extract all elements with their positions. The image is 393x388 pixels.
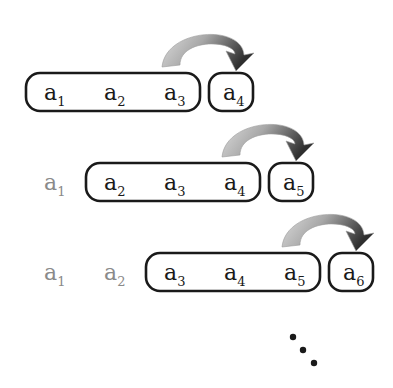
term-base: a xyxy=(224,170,237,195)
term-subscript: 2 xyxy=(117,94,125,109)
term-subscript: 4 xyxy=(236,94,244,109)
term-subscript: 2 xyxy=(117,184,125,199)
curved-arrow-icon xyxy=(282,214,374,251)
window-term: a3 xyxy=(164,170,185,199)
term-base: a xyxy=(164,260,177,285)
term-subscript: 3 xyxy=(177,184,185,199)
window-term: a2 xyxy=(104,80,125,109)
ellipsis-dot xyxy=(311,360,317,366)
term-base: a xyxy=(343,260,356,285)
term-subscript: 3 xyxy=(177,274,185,289)
window-row: a1a2a3a4a5 xyxy=(44,124,314,201)
ellipsis-dot xyxy=(290,334,296,340)
term-base: a xyxy=(283,170,296,195)
term-base: a xyxy=(104,170,117,195)
window-term: a3 xyxy=(164,80,185,109)
next-term: a6 xyxy=(343,260,364,289)
ellipsis-dot xyxy=(300,347,306,353)
term-base: a xyxy=(44,260,57,285)
window-term: a1 xyxy=(44,80,65,109)
term-base: a xyxy=(223,80,236,105)
window-term: a2 xyxy=(104,170,125,199)
sliding-window-diagram: a1a2a3a4a1a2a3a4a5a1a2a3a4a5a6 xyxy=(0,0,393,388)
term-subscript: 2 xyxy=(117,274,125,289)
window-row: a1a2a3a4a5a6 xyxy=(44,214,374,291)
term-subscript: 5 xyxy=(296,184,304,199)
term-subscript: 4 xyxy=(237,184,245,199)
term-base: a xyxy=(284,260,297,285)
window-term: a4 xyxy=(224,170,245,199)
diagonal-ellipsis-icon xyxy=(290,334,317,366)
term-subscript: 1 xyxy=(57,94,65,109)
term-subscript: 1 xyxy=(57,184,65,199)
term-base: a xyxy=(104,260,117,285)
term-subscript: 4 xyxy=(237,274,245,289)
term-subscript: 1 xyxy=(57,274,65,289)
term-base: a xyxy=(164,170,177,195)
curved-arrow-icon xyxy=(162,34,254,71)
passed-term: a2 xyxy=(104,260,125,289)
passed-term: a1 xyxy=(44,170,65,199)
next-term: a4 xyxy=(223,80,244,109)
term-subscript: 6 xyxy=(356,274,364,289)
window-term: a5 xyxy=(284,260,305,289)
window-term: a3 xyxy=(164,260,185,289)
term-subscript: 3 xyxy=(177,94,185,109)
window-row: a1a2a3a4 xyxy=(26,34,254,111)
passed-term: a1 xyxy=(44,260,65,289)
window-term: a4 xyxy=(224,260,245,289)
term-subscript: 5 xyxy=(297,274,305,289)
term-base: a xyxy=(44,80,57,105)
term-base: a xyxy=(224,260,237,285)
curved-arrow-icon xyxy=(222,124,314,161)
next-term: a5 xyxy=(283,170,304,199)
term-base: a xyxy=(104,80,117,105)
term-base: a xyxy=(164,80,177,105)
term-base: a xyxy=(44,170,57,195)
